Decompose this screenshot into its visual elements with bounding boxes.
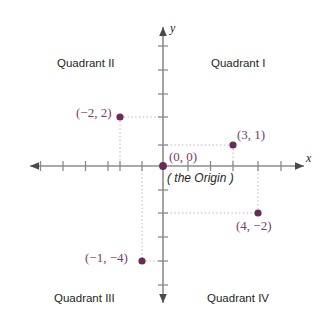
quadrant-4-label: Quadrant IV bbox=[207, 293, 269, 305]
point-neg2-2[interactable] bbox=[116, 113, 123, 120]
point-3-1[interactable] bbox=[229, 141, 236, 148]
x-axis-label: x bbox=[306, 152, 311, 164]
point-neg1-neg4[interactable] bbox=[138, 257, 145, 264]
quadrant-2-label: Quadrant II bbox=[57, 58, 115, 70]
coordinate-plane-figure: Quadrant II Quadrant I Quadrant III Quad… bbox=[0, 0, 329, 328]
point-label-origin: (0, 0) bbox=[169, 150, 197, 163]
point-label-neg2-2: (−2, 2) bbox=[76, 106, 112, 119]
coordinate-axes-svg bbox=[0, 0, 329, 328]
y-axis-label: y bbox=[170, 22, 175, 34]
y-axis-arrow-down bbox=[159, 294, 167, 303]
x-axis-arrow-left bbox=[30, 162, 39, 170]
point-label-neg1-neg4: (−1, −4) bbox=[85, 251, 128, 264]
y-axis-arrow-up bbox=[159, 27, 167, 36]
point-origin[interactable] bbox=[159, 162, 167, 170]
origin-note-label: ( the Origin ) bbox=[167, 172, 234, 184]
point-label-3-1: (3, 1) bbox=[237, 128, 265, 141]
x-axis-arrow-right bbox=[295, 162, 304, 170]
quadrant-3-label: Quadrant III bbox=[54, 293, 115, 305]
point-label-4-neg2: (4, −2) bbox=[236, 219, 272, 232]
quadrant-1-label: Quadrant I bbox=[211, 58, 265, 70]
point-4-neg2[interactable] bbox=[254, 209, 261, 216]
